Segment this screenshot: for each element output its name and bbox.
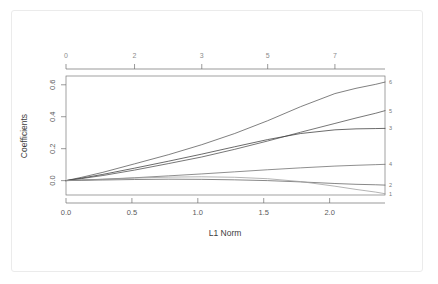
top-tick-label: 0	[64, 52, 68, 59]
x-tick-label: 0.5	[127, 208, 137, 217]
x-axis-tick-labels: 0.00.51.01.52.0	[61, 208, 335, 217]
series-edge-label-5: 5	[389, 108, 392, 114]
top-tick-label: 3	[200, 52, 204, 59]
top-tick-label: 2	[133, 52, 137, 59]
y-axis-tick-labels: 0.00.20.40.6	[49, 80, 58, 186]
x-tick-label: 1.0	[193, 208, 203, 217]
series-edge-label-1: 1	[389, 191, 392, 197]
y-axis-title: Coefficients	[19, 114, 29, 158]
top-axis-tick-labels: 02357	[64, 52, 337, 59]
series-edge-label-6: 6	[389, 79, 392, 85]
x-tick-label: 0.0	[61, 208, 71, 217]
series-edge-labels: 653421	[389, 79, 392, 197]
coefficient-paths	[66, 82, 385, 194]
x-tick-label: 2.0	[324, 208, 334, 217]
lars-coefficient-path-plot: 02357 0.00.20.40.6 Coefficients 0.00.51.…	[0, 0, 438, 284]
y-tick-label: 0.6	[49, 80, 58, 90]
y-tick-label: 0.0	[49, 175, 58, 185]
top-axis-ticks	[66, 64, 335, 69]
series-edge-label-2: 2	[389, 182, 392, 188]
y-axis-ticks	[61, 85, 66, 181]
top-tick-label: 7	[333, 52, 337, 59]
x-axis: 0.00.51.01.52.0 L1 Norm	[61, 198, 385, 238]
y-tick-label: 0.4	[49, 112, 58, 122]
coefficient-path-2	[66, 179, 385, 185]
coefficient-path-5	[66, 111, 385, 181]
series-edge-label-3: 3	[389, 125, 392, 131]
x-axis-ticks	[66, 198, 330, 203]
x-tick-label: 1.5	[259, 208, 269, 217]
top-tick-label: 5	[266, 52, 270, 59]
x-axis-title: L1 Norm	[209, 228, 242, 238]
y-tick-label: 0.2	[49, 143, 58, 153]
plot-canvas: 02357 0.00.20.40.6 Coefficients 0.00.51.…	[0, 0, 438, 284]
y-axis: 0.00.20.40.6 Coefficients	[19, 80, 66, 186]
top-axis: 02357	[64, 52, 385, 69]
series-edge-label-4: 4	[389, 161, 392, 167]
